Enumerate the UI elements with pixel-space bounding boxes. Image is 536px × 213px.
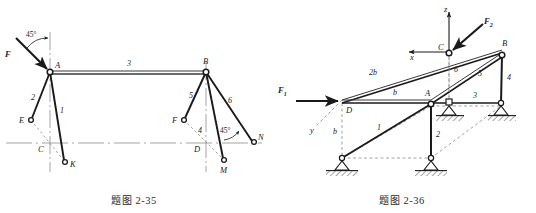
point-label-B: B <box>203 56 208 66</box>
point-label-K: K <box>69 159 77 169</box>
joint-A-square <box>446 99 452 105</box>
angle-label-45-n: 45° <box>220 126 231 135</box>
point-label-D: D <box>345 105 353 115</box>
member-label-1: 1 <box>60 106 64 115</box>
point-label-E: E <box>18 115 25 125</box>
joint-C <box>446 50 452 56</box>
support-lower-left <box>326 155 358 176</box>
member-label-2: 2 <box>31 93 35 102</box>
caption-num-2-36: 2-36 <box>403 195 424 206</box>
projection-line-diag-rear-right <box>431 106 501 158</box>
member-label-5: 5 <box>478 69 482 78</box>
joint-A <box>47 69 53 75</box>
construction-line-fm <box>184 120 224 160</box>
caption-cn-2-36: 题图 <box>379 195 400 206</box>
caption-cn-2-35: 题图 <box>111 195 132 206</box>
joint-E <box>29 118 34 123</box>
joint-F <box>182 118 187 123</box>
dimension-label-b-vertical: b <box>333 127 337 136</box>
point-label-A: A <box>424 88 431 98</box>
figure-sheet: 45° F A B E K F M N C D 1 2 3 4 5 6 45° … <box>0 0 536 213</box>
member-label-4: 4 <box>507 73 511 82</box>
force-label-F: F <box>4 49 11 59</box>
figure-2-36-caption: 题图 2-36 <box>268 192 536 207</box>
figure-2-36-drawing: z x y F1 F2 C B A D 2b b b 1 2 3 4 5 6 <box>268 0 536 185</box>
figure-2-35-drawing: 45° F A B E K F M N C D 1 2 3 4 5 6 45° <box>0 0 268 185</box>
axis-label-y: y <box>309 125 314 135</box>
point-label-A: A <box>54 60 61 70</box>
member-label-5: 5 <box>189 91 193 100</box>
support-mid-upper <box>436 106 464 121</box>
dimension-label-b-horizontal: b <box>393 88 397 97</box>
member-label-3: 3 <box>472 91 477 100</box>
point-label-M: M <box>219 165 228 175</box>
member-chord-dcb-bot <box>342 53 502 103</box>
joint-A <box>428 101 434 107</box>
force-label-F1: F1 <box>277 85 287 97</box>
point-label-D: D <box>193 144 201 154</box>
member-1 <box>50 72 64 160</box>
support-lower-mid <box>415 155 447 176</box>
axis-label-x: x <box>409 52 414 62</box>
dimension-label-2b: 2b <box>369 68 377 77</box>
point-label-B: B <box>502 38 507 48</box>
joint-B <box>203 69 209 75</box>
member-label-2: 2 <box>436 130 440 139</box>
axis-label-z: z <box>443 4 448 14</box>
point-label-C: C <box>38 144 44 154</box>
joint-K <box>63 160 68 165</box>
joint-N <box>252 140 257 145</box>
member-label-6: 6 <box>454 65 458 74</box>
caption-num-2-35: 2-35 <box>135 195 156 206</box>
joint-B <box>499 52 505 58</box>
member-label-6: 6 <box>228 96 232 105</box>
figure-2-35: 45° F A B E K F M N C D 1 2 3 4 5 6 45° … <box>0 0 268 213</box>
construction-line-ek <box>31 120 65 162</box>
member-4 <box>501 55 502 103</box>
point-label-F: F <box>171 115 178 125</box>
figure-2-36: z x y F1 F2 C B A D 2b b b 1 2 3 4 5 6 题… <box>268 0 536 213</box>
member-label-1: 1 <box>377 123 381 132</box>
member-label-4: 4 <box>198 126 202 135</box>
member-1 <box>342 104 431 158</box>
figure-2-35-caption: 题图 2-35 <box>0 192 268 207</box>
point-label-C: C <box>438 42 444 52</box>
force-arrow-F <box>16 38 47 69</box>
angle-label-45-a: 45° <box>26 30 37 39</box>
member-label-3: 3 <box>126 59 131 68</box>
member-5-top <box>431 53 502 100</box>
point-label-N: N <box>257 132 265 142</box>
projection-line-y-axis <box>316 100 342 126</box>
angle-arc-45-at-a <box>27 38 48 48</box>
force-label-F2: F2 <box>483 16 493 28</box>
joint-M <box>222 158 227 163</box>
force-arrow-F2 <box>453 24 483 50</box>
